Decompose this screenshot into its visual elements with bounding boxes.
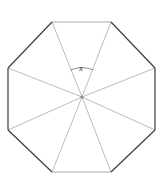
figure-background [0,0,168,186]
center-point [80,95,83,98]
figure-canvas: x [0,0,168,186]
angle-label-x: x [78,64,83,73]
octagon-figure: x [0,0,168,186]
